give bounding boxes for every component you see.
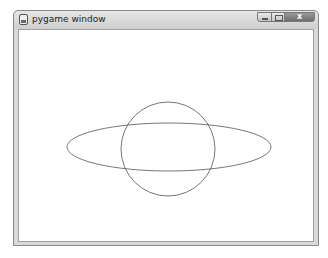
- pygame-icon: [19, 14, 28, 25]
- close-icon: x: [297, 12, 302, 21]
- close-button[interactable]: x: [284, 12, 315, 22]
- pygame-window: pygame window x: [13, 10, 319, 246]
- minimize-button[interactable]: [257, 12, 272, 22]
- ellipse-shape: [67, 123, 271, 171]
- title-bar[interactable]: pygame window x: [14, 11, 318, 29]
- circle-shape: [121, 102, 215, 196]
- window-title: pygame window: [32, 13, 106, 26]
- drawing-canvas: [19, 30, 313, 241]
- pygame-canvas-area[interactable]: [18, 29, 314, 242]
- maximize-button[interactable]: [271, 12, 285, 22]
